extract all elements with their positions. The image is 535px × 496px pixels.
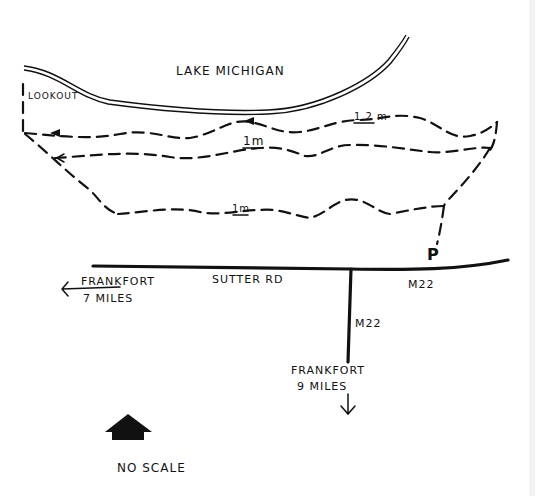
- lake-michigan-label: LAKE MICHIGAN: [176, 64, 285, 78]
- trail-map: LAKE MICHIGAN LOOKOUT 1.2 m 1m 1m P SUTT: [0, 0, 535, 496]
- trail-network: [23, 84, 497, 244]
- scale-note: NO SCALE: [117, 461, 186, 475]
- parking-spur-trail: [437, 206, 444, 244]
- sutter-road-label: SUTTER RD: [212, 273, 283, 286]
- south-distance-label: 9 MILES: [297, 380, 347, 393]
- trail-direction-arrow-icon: [244, 117, 254, 125]
- west-descent-trail: [25, 134, 118, 214]
- upper-loop-length-label: 1.2 m: [354, 111, 388, 122]
- roads: [93, 260, 508, 362]
- middle-loop-length-label: 1m: [243, 134, 264, 148]
- parking-marker: P: [427, 245, 440, 264]
- south-arrow-icon: [341, 394, 355, 414]
- west-distance-label: 7 MILES: [83, 292, 133, 305]
- lower-loop-trail: [118, 199, 444, 218]
- sutter-road-line: [93, 260, 508, 269]
- m22-south-label: M22: [355, 317, 382, 330]
- south-destination-label: FRANKFORT: [291, 364, 365, 377]
- lower-loop-length-label: 1m: [232, 203, 250, 214]
- lookout-label: LOOKOUT: [28, 91, 78, 101]
- east-descent-trail: [444, 148, 490, 206]
- west-destination-label: FRANKFORT: [81, 275, 155, 288]
- m22-south-line: [348, 269, 351, 362]
- middle-loop-trail: [55, 145, 490, 158]
- north-arrow-icon: [105, 414, 152, 440]
- m22-east-label: M22: [408, 278, 435, 291]
